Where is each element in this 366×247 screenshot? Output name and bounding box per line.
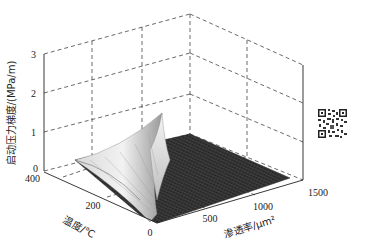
x-axis-label: 渗透率/μm² [222,213,277,240]
svg-text:1: 1 [31,127,36,138]
surface-chart: 3 2 1 0 400 200 0 500 1000 1500 启动压力梯度/(… [0,0,366,247]
svg-text:3: 3 [31,49,36,60]
svg-text:400: 400 [25,173,40,184]
qr-code-icon [317,108,348,139]
svg-text:200: 200 [86,200,101,211]
svg-text:1500: 1500 [308,187,328,198]
z-axis-label: 启动压力梯度/(MPa/m) [5,61,17,166]
y-axis-label: 温度/℃ [61,213,97,240]
z-axis-ticks: 3 2 1 0 [31,49,38,174]
svg-text:500: 500 [203,213,218,224]
svg-text:1000: 1000 [253,201,273,212]
svg-text:0: 0 [148,227,153,238]
svg-text:2: 2 [31,88,36,99]
